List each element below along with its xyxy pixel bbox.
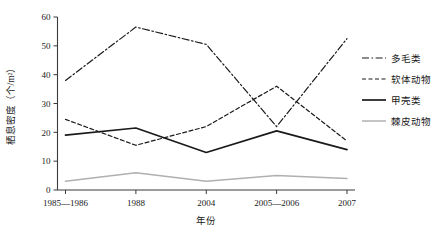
chart-figure: 0102030405060 1985—1986198820042005—2006… — [0, 0, 439, 231]
y-tick-label: 0 — [46, 185, 51, 195]
chart-legend: 多毛类软体动物甲壳类棘皮动物 — [362, 53, 431, 127]
x-tick-label: 2004 — [197, 198, 216, 208]
x-tick-label: 1985—1986 — [43, 198, 89, 208]
y-tick-label: 60 — [42, 12, 52, 22]
y-tick-label: 10 — [42, 156, 52, 166]
y-axis-title: 栖息密度（个/m²） — [5, 63, 16, 146]
legend-label-0: 多毛类 — [391, 53, 421, 64]
y-tick-label: 50 — [42, 41, 52, 51]
line-chart-svg: 0102030405060 1985—1986198820042005—2006… — [0, 0, 439, 231]
y-tick-label: 40 — [42, 70, 52, 80]
legend-label-1: 软体动物 — [391, 74, 431, 85]
series-line-0 — [66, 27, 348, 126]
x-tick-label: 2005—2006 — [254, 198, 300, 208]
series-lines — [66, 27, 348, 181]
legend-label-2: 甲壳类 — [391, 95, 421, 106]
series-line-1 — [66, 86, 348, 145]
x-tick-label: 1988 — [127, 198, 146, 208]
y-axis-ticks: 0102030405060 — [42, 12, 58, 195]
y-tick-label: 20 — [42, 128, 52, 138]
legend-label-3: 棘皮动物 — [391, 116, 431, 127]
series-line-2 — [66, 128, 348, 153]
x-axis-ticks: 1985—1986198820042005—20062007 — [43, 190, 357, 208]
x-axis-title: 年份 — [196, 215, 216, 226]
series-line-3 — [66, 173, 348, 182]
x-tick-label: 2007 — [338, 198, 357, 208]
y-tick-label: 30 — [42, 99, 52, 109]
